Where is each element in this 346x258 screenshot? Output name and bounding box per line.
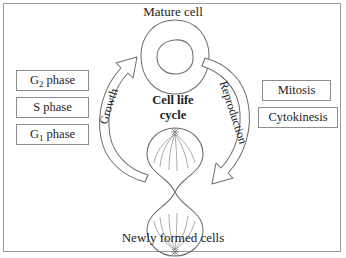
box-g2-phase-label: G2 phase <box>30 73 75 88</box>
box-g1-phase-label: G1 phase <box>30 127 75 142</box>
centrosome-bottom-icon <box>171 248 179 256</box>
center-title-line2: cycle <box>160 108 186 122</box>
mature-cell <box>141 20 209 94</box>
cell-life-cycle-figure: .ln { fill: none; stroke: #6f6f6f; strok… <box>0 0 346 258</box>
box-g2-phase[interactable]: G2 phase <box>16 70 89 91</box>
newly-formed-cells-label: Newly formed cells <box>0 231 346 245</box>
box-s-phase-label: S phase <box>33 100 72 115</box>
box-cytokinesis-label: Cytokinesis <box>268 110 327 125</box>
box-cytokinesis[interactable]: Cytokinesis <box>258 107 338 128</box>
centrosome-top-icon <box>171 128 179 136</box>
spindle-fibers-top <box>154 128 195 171</box>
box-mitosis[interactable]: Mitosis <box>262 80 331 101</box>
box-g1-phase[interactable]: G1 phase <box>16 124 89 145</box>
mature-cell-label: Mature cell <box>0 5 346 19</box>
box-s-phase[interactable]: S phase <box>16 97 89 118</box>
center-title-line1: Cell life <box>152 93 193 107</box>
box-mitosis-label: Mitosis <box>278 83 316 98</box>
